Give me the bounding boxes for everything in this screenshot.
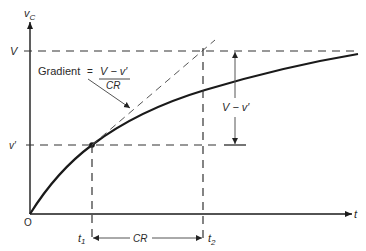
gradient-label: Gradient bbox=[38, 65, 80, 77]
v-level-label: V bbox=[10, 45, 19, 57]
cr-interval-label: CR bbox=[133, 233, 147, 244]
charging-curve-diagram: vC t O V v′ Gradient = V − v′ CR V − v′ … bbox=[0, 0, 366, 251]
y-axis-label: vC bbox=[24, 7, 36, 22]
gradient-denominator: CR bbox=[106, 80, 120, 91]
v-prime-level-label: v′ bbox=[9, 140, 17, 151]
charging-curve bbox=[30, 54, 358, 214]
difference-label: V − v′ bbox=[222, 101, 250, 113]
origin-label: O bbox=[24, 217, 32, 228]
x-axis-label: t bbox=[354, 208, 358, 220]
gradient-equals: = bbox=[87, 66, 93, 77]
gradient-numerator: V − v′ bbox=[100, 65, 128, 77]
t1-label: t1 bbox=[78, 232, 86, 246]
t2-label: t2 bbox=[208, 232, 216, 247]
